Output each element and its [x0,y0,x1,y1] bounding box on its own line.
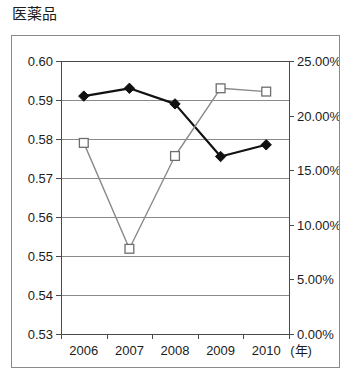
y-axis-left-tick-label: 0.58 [28,132,53,147]
data-point-marker [171,152,180,161]
chart-frame: 0.600.590.580.570.560.550.540.53 25.00%2… [11,35,340,368]
y-axis-right-tick-label: 25.00% [297,54,339,69]
data-point-marker [79,139,88,148]
x-axis-tick-label: 2010 [252,343,281,358]
y-axis-right-tick-label: 15.00% [297,163,339,178]
y-axis-left-tick-label: 0.57 [28,171,53,186]
data-point-marker [261,140,271,150]
chart-plot: 0.600.590.580.570.560.550.540.53 25.00%2… [12,36,339,367]
x-axis-tick-label: 2009 [206,343,235,358]
y-axis-left-tick-label: 0.53 [28,327,53,342]
series-line-square-series [84,88,266,249]
y-axis-right-tick-label: 0.00% [297,327,334,342]
x-axis-unit-label: (年) [290,343,312,358]
y-axis-left-tick-label: 0.54 [28,288,53,303]
y-axis-left-labels: 0.600.590.580.570.560.550.540.53 [28,54,53,342]
x-axis-tick-label: 2006 [69,343,98,358]
x-axis-labels: 20062007200820092010(年) [69,343,312,358]
x-axis-tick-label: 2007 [115,343,144,358]
y-axis-left-tick-label: 0.56 [28,210,53,225]
gridlines-group [61,101,289,296]
y-axis-right-labels: 25.00%20.00%15.00%10.00%5.00%0.00% [297,54,339,342]
data-series-group [79,83,272,253]
y-axis-left-tick-label: 0.55 [28,249,53,264]
y-axis-right-tick-label: 20.00% [297,109,339,124]
data-point-marker [124,83,134,93]
data-point-marker [125,244,134,253]
y-axis-left-tick-label: 0.60 [28,54,53,69]
y-axis-right-tick-label: 10.00% [297,218,339,233]
data-point-marker [216,84,225,93]
chart-title: 医薬品 [12,4,57,24]
data-point-marker [262,87,271,96]
x-axis-tick-label: 2008 [161,343,190,358]
data-point-marker [79,91,89,101]
y-axis-left-tick-label: 0.59 [28,93,53,108]
chart-figure: 医薬品 0.600.590.580.570.560.550.540.53 25.… [0,0,350,385]
y-axis-right-tick-label: 5.00% [297,272,334,287]
